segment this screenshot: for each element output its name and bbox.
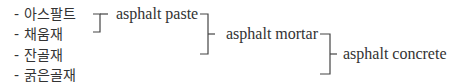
component-fine-aggregate: - 잔골재 [14, 46, 63, 64]
bracket-paste [93, 14, 100, 32]
stage-asphalt-mortar: asphalt mortar [226, 25, 318, 43]
component-asphalt: - 아스팔트 [14, 5, 76, 23]
component-filler: - 채움재 [14, 25, 63, 43]
bracket-concrete [320, 34, 330, 74]
stage-asphalt-paste: asphalt paste [116, 5, 198, 23]
component-coarse-aggregate: - 굵은골재 [14, 66, 76, 84]
bracket-mortar [200, 14, 208, 54]
stage-asphalt-concrete: asphalt concrete [343, 45, 447, 63]
